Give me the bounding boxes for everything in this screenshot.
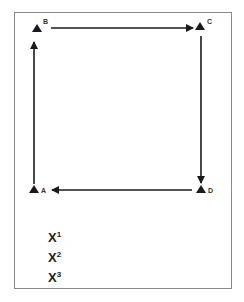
node-c-triangle-icon	[195, 22, 205, 30]
node-c-label: C	[207, 18, 212, 25]
node-d-triangle-icon	[196, 185, 206, 193]
node-b-label: B	[43, 18, 48, 25]
node-a-label: A	[41, 187, 46, 194]
node-d-label: D	[208, 187, 213, 194]
variable-list: X1 X2 X3	[48, 225, 61, 285]
variable-x1: X1	[48, 225, 61, 245]
cycle-diagram	[0, 0, 244, 302]
variable-x3: X3	[48, 265, 61, 285]
variable-x2: X2	[48, 245, 61, 265]
node-a-triangle-icon	[29, 185, 39, 193]
node-b-triangle-icon	[32, 24, 42, 32]
